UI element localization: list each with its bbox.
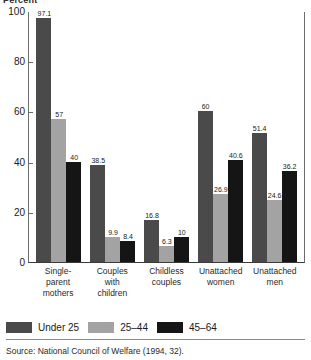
- legend-swatch: [88, 322, 114, 333]
- bar-value-label: 97.1: [38, 10, 52, 17]
- bar-value-label: 26.9: [214, 186, 228, 193]
- category-label-line: couples: [141, 277, 191, 288]
- category-label-line: Unattached: [250, 266, 300, 277]
- bar: [105, 237, 120, 262]
- category-label-line: parent: [33, 277, 83, 288]
- bar-value-label: 6.3: [162, 238, 172, 245]
- bar-group: 6026.940.6: [198, 12, 243, 262]
- bar-group: 38.59.98.4: [90, 12, 135, 262]
- bar: [198, 111, 213, 262]
- bar-value-label: 36.2: [283, 163, 297, 170]
- bar: [36, 18, 51, 262]
- bar-value-label: 57: [55, 111, 63, 118]
- bar-column: 8.4: [120, 12, 135, 262]
- legend-label: 25–44: [120, 322, 148, 333]
- bar-column: 10: [174, 12, 189, 262]
- y-tick-label-0: 0: [1, 258, 25, 268]
- bar: [159, 246, 174, 262]
- source-note: Source: National Council of Welfare (199…: [6, 346, 184, 356]
- bar-value-label: 40: [70, 154, 78, 161]
- bar-column: 26.9: [213, 12, 228, 262]
- bar-column: 40: [66, 12, 81, 262]
- bar: [90, 165, 105, 262]
- category-label: Unattachedwomen: [196, 266, 246, 299]
- bar-group: 97.15740: [36, 12, 81, 262]
- category-label: Coupleswithchildren: [87, 266, 137, 299]
- bar-group: 51.424.636.2: [252, 12, 297, 262]
- x-axis-category-labels: Single-parentmothersCoupleswithchildrenC…: [28, 266, 305, 299]
- bar-value-label: 24.6: [268, 192, 282, 199]
- bar-column: 16.8: [144, 12, 159, 262]
- bar-value-label: 60: [202, 103, 210, 110]
- category-label-line: with: [87, 277, 137, 288]
- legend-label: Under 25: [38, 322, 79, 333]
- bar-chart-figure: Percent 020406080100 97.1574038.59.98.41…: [0, 0, 311, 360]
- category-label-line: Single-: [33, 266, 83, 277]
- bar: [267, 200, 282, 262]
- bar-column: 38.5: [90, 12, 105, 262]
- chart-legend: Under 2525–4445–64: [6, 322, 305, 340]
- bars-layer: 97.1574038.59.98.416.86.3106026.940.651.…: [29, 12, 304, 262]
- legend-item: Under 25: [6, 322, 79, 333]
- y-tick-label-40: 40: [1, 158, 25, 168]
- bar-column: 9.9: [105, 12, 120, 262]
- bar: [174, 237, 189, 262]
- plot-area: 020406080100 97.1574038.59.98.416.86.310…: [28, 12, 305, 263]
- category-label-line: Childless: [141, 266, 191, 277]
- category-label-line: Couples: [87, 266, 137, 277]
- y-axis-title: Percent: [3, 0, 37, 5]
- bar-column: 60: [198, 12, 213, 262]
- bar-column: 40.6: [228, 12, 243, 262]
- y-tick-label-20: 20: [1, 208, 25, 218]
- bar-column: 36.2: [282, 12, 297, 262]
- legend-item: 25–44: [88, 322, 148, 333]
- bar: [51, 119, 66, 262]
- bar-column: 97.1: [36, 12, 51, 262]
- category-label-line: men: [250, 277, 300, 288]
- y-tick-label-80: 80: [1, 57, 25, 67]
- bar-column: 57: [51, 12, 66, 262]
- bar: [144, 220, 159, 262]
- category-label: Unattachedmen: [250, 266, 300, 299]
- bar-column: 6.3: [159, 12, 174, 262]
- bar: [66, 162, 81, 262]
- bar: [252, 133, 267, 262]
- bar-column: 51.4: [252, 12, 267, 262]
- category-label-line: mothers: [33, 288, 83, 299]
- category-label-line: Unattached: [196, 266, 246, 277]
- legend-label: 45–64: [189, 322, 217, 333]
- bar-value-label: 10: [178, 229, 186, 236]
- bar-value-label: 16.8: [145, 212, 159, 219]
- category-label: Single-parentmothers: [33, 266, 83, 299]
- bar-value-label: 38.5: [91, 157, 105, 164]
- bar-value-label: 40.6: [229, 152, 243, 159]
- bar-value-label: 51.4: [253, 125, 267, 132]
- bar-column: 24.6: [267, 12, 282, 262]
- bar: [213, 194, 228, 262]
- bar-value-label: 9.9: [108, 229, 118, 236]
- category-label-line: children: [87, 288, 137, 299]
- y-tick-label-60: 60: [1, 107, 25, 117]
- bar: [228, 160, 243, 262]
- legend-item: 45–64: [157, 322, 217, 333]
- bar-group: 16.86.310: [144, 12, 189, 262]
- bar: [120, 241, 135, 262]
- category-label-line: women: [196, 277, 246, 288]
- y-tick-label-100: 100: [1, 7, 25, 17]
- bar: [282, 171, 297, 262]
- legend-swatch: [157, 322, 183, 333]
- category-label: Childlesscouples: [141, 266, 191, 299]
- bar-value-label: 8.4: [123, 233, 133, 240]
- legend-swatch: [6, 322, 32, 333]
